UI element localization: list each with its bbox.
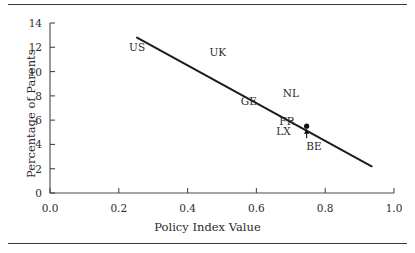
y-axis-title: Percentage of Parents	[26, 29, 38, 199]
figure-container: 02468101214 0.00.20.40.60.81.0 USUKGENLF…	[0, 0, 415, 253]
x-tick-label: 0.0	[30, 203, 70, 214]
x-tick-label: 0.4	[168, 203, 208, 214]
data-point-marker	[304, 124, 309, 129]
x-tick-label: 0.8	[305, 203, 345, 214]
x-axis-title: Policy Index Value	[0, 222, 415, 234]
chart-canvas	[0, 0, 415, 253]
point-label-nl: NL	[283, 88, 299, 99]
point-label-uk: UK	[210, 47, 227, 58]
point-label-ge: GE	[241, 96, 257, 107]
x-tick-label: 1.0	[374, 203, 414, 214]
y-tick-label: 14	[10, 18, 42, 29]
x-tick-label: 0.2	[99, 203, 139, 214]
point-label-be: BE	[306, 141, 321, 152]
x-tick-label: 0.6	[236, 203, 276, 214]
point-label-us: US	[129, 42, 145, 53]
point-label-lx: LX	[276, 126, 290, 137]
